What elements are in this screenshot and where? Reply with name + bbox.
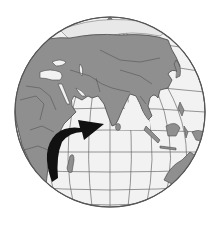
land-sri-lanka xyxy=(116,124,121,131)
globe-svg xyxy=(0,0,222,226)
globe-figure xyxy=(0,0,222,226)
